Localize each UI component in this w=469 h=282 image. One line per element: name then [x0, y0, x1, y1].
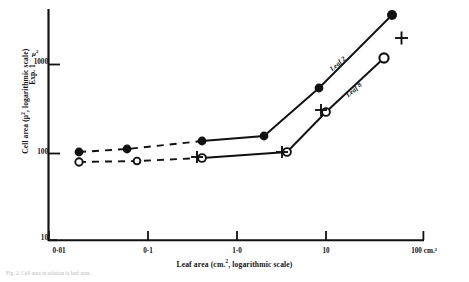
leaf-8-point — [75, 158, 82, 165]
leaf-8-line-solid — [202, 58, 384, 158]
leaf-2-point — [123, 145, 132, 154]
leaf-8-point — [134, 158, 141, 165]
x-axis-title-main: Leaf area (cm. — [176, 260, 225, 269]
x-tick-marks — [49, 231, 424, 240]
leaf-8-point — [198, 154, 206, 162]
y-tick-label-10: 10 — [26, 234, 48, 242]
leaf-8-point — [379, 53, 388, 62]
y-axis-title-exponent: 2 — [20, 112, 26, 115]
x-tick-label-10: 10 — [322, 247, 329, 255]
leaf-2-point — [260, 132, 269, 141]
plus-marker — [395, 32, 408, 45]
x-tick-label-0-1: 0·1 — [143, 247, 153, 255]
leaf-2-point — [198, 137, 207, 146]
leaf-2-point — [315, 84, 324, 93]
x-tick-label-1-0: 1·0 — [232, 247, 242, 255]
experiment-label: Exp. 1 — [28, 45, 37, 105]
axis-lines — [48, 9, 424, 241]
series-plus-markers — [191, 32, 408, 164]
plot-area — [0, 0, 469, 282]
y-axis-title-main: Cell area (μ — [21, 115, 30, 154]
y-tick-marks — [48, 65, 60, 241]
series-leaf-2 — [75, 10, 397, 156]
chart-canvas — [0, 0, 469, 282]
figure-caption: Fig. 2. Cell area in relation to leaf ar… — [6, 270, 91, 276]
x-axis-title: Leaf area (cm.2, logarithmic scale) — [0, 258, 469, 269]
leaf-2-line-dashed — [79, 141, 202, 152]
leaf-2-point — [75, 148, 84, 157]
x-tick-label-100: 100 cm.² — [411, 247, 437, 255]
x-tick-label-0-01: 0·01 — [52, 247, 65, 255]
leaf-2-point — [387, 10, 397, 20]
figure-root: μ2 1000 100 10 0·01 0·1 1·0 10 100 cm.² … — [0, 0, 469, 282]
x-axis-title-tail: , logarithmic scale) — [228, 260, 292, 269]
